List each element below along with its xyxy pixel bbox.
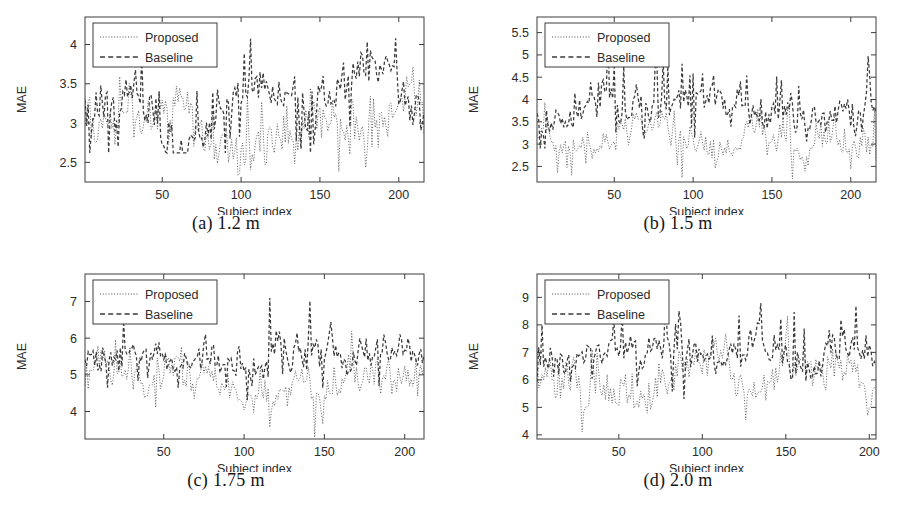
y-tick-label: 5 xyxy=(522,48,529,62)
y-tick-label: 2.5 xyxy=(512,160,529,174)
y-axis-label: MAE xyxy=(15,343,29,370)
panel-caption-c: (c) 1.75 m xyxy=(0,470,452,491)
x-tick-label: 200 xyxy=(840,188,861,202)
plot-area-b[interactable]: 2.533.544.555.550100150200Subject indexM… xyxy=(452,0,904,215)
y-tick-label: 5 xyxy=(70,368,77,382)
legend-item-proposed-label: Proposed xyxy=(145,288,199,302)
legend-item-baseline-label: Baseline xyxy=(597,51,645,65)
chart-svg-d[interactable]: 45678950100150200Subject indexMAEPropose… xyxy=(452,257,904,472)
x-tick-label: 50 xyxy=(607,188,621,202)
x-tick-label: 150 xyxy=(310,188,331,202)
x-tick-label: 100 xyxy=(683,188,704,202)
panel-caption-d: (d) 2.0 m xyxy=(452,470,904,491)
legend-item-baseline-label: Baseline xyxy=(145,51,193,65)
y-axis-label: MAE xyxy=(15,86,29,113)
series-line-proposed xyxy=(537,316,876,432)
x-tick-label: 50 xyxy=(157,445,171,459)
y-tick-label: 4 xyxy=(70,38,77,52)
x-tick-label: 200 xyxy=(394,445,415,459)
y-tick-label: 7 xyxy=(70,295,77,309)
y-tick-label: 6 xyxy=(522,373,529,387)
y-tick-label: 3.5 xyxy=(60,77,77,91)
y-tick-label: 2.5 xyxy=(60,156,77,170)
y-axis-label: MAE xyxy=(467,86,481,113)
chart-svg-c[interactable]: 456750100150200Subject indexMAEProposedB… xyxy=(0,257,452,472)
y-tick-label: 6 xyxy=(70,332,77,346)
y-tick-label: 3.5 xyxy=(512,115,529,129)
panel-d: 45678950100150200Subject indexMAEPropose… xyxy=(452,257,904,514)
legend-item-proposed-label: Proposed xyxy=(597,31,651,45)
y-axis-label: MAE xyxy=(467,343,481,370)
x-tick-label: 200 xyxy=(859,445,880,459)
x-tick-label: 100 xyxy=(234,445,255,459)
legend-item-proposed-label: Proposed xyxy=(145,31,199,45)
y-tick-label: 4.5 xyxy=(512,71,529,85)
chart-svg-a[interactable]: 2.533.5450100150200Subject indexMAEPropo… xyxy=(0,0,452,215)
legend-item-baseline-label: Baseline xyxy=(597,308,645,322)
x-tick-label: 100 xyxy=(231,188,252,202)
chart-svg-b[interactable]: 2.533.544.555.550100150200Subject indexM… xyxy=(452,0,904,215)
y-tick-label: 9 xyxy=(522,291,529,305)
plot-area-d[interactable]: 45678950100150200Subject indexMAEPropose… xyxy=(452,257,904,472)
x-tick-label: 100 xyxy=(692,445,713,459)
panel-caption-a: (a) 1.2 m xyxy=(0,213,452,234)
x-tick-label: 150 xyxy=(775,445,796,459)
panel-caption-b: (b) 1.5 m xyxy=(452,213,904,234)
series-line-proposed xyxy=(85,331,424,437)
y-tick-label: 8 xyxy=(522,318,529,332)
series-line-proposed xyxy=(537,102,876,179)
figure-root: 2.533.5450100150200Subject indexMAEPropo… xyxy=(0,0,905,514)
x-tick-label: 150 xyxy=(314,445,335,459)
y-tick-label: 3 xyxy=(522,138,529,152)
y-tick-label: 5.5 xyxy=(512,26,529,40)
y-tick-label: 4 xyxy=(522,428,529,442)
x-tick-label: 50 xyxy=(155,188,169,202)
y-tick-label: 7 xyxy=(522,346,529,360)
panel-b: 2.533.544.555.550100150200Subject indexM… xyxy=(452,0,904,257)
plot-area-c[interactable]: 456750100150200Subject indexMAEProposedB… xyxy=(0,257,452,472)
x-tick-label: 200 xyxy=(388,188,409,202)
y-tick-label: 5 xyxy=(522,401,529,415)
y-tick-label: 3 xyxy=(70,117,77,131)
y-tick-label: 4 xyxy=(70,405,77,419)
legend-item-proposed-label: Proposed xyxy=(597,288,651,302)
x-tick-label: 50 xyxy=(612,445,626,459)
plot-area-a[interactable]: 2.533.5450100150200Subject indexMAEPropo… xyxy=(0,0,452,215)
panel-a: 2.533.5450100150200Subject indexMAEPropo… xyxy=(0,0,452,257)
panel-c: 456750100150200Subject indexMAEProposedB… xyxy=(0,257,452,514)
x-tick-label: 150 xyxy=(762,188,783,202)
legend-item-baseline-label: Baseline xyxy=(145,308,193,322)
y-tick-label: 4 xyxy=(522,93,529,107)
